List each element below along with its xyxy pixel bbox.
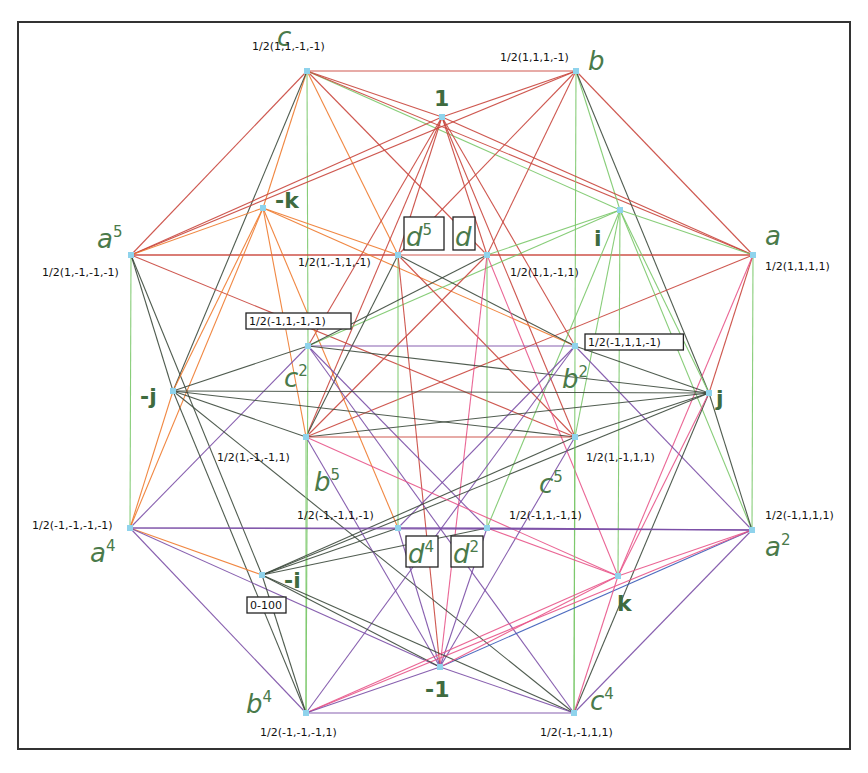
edge-b-a [576, 71, 753, 255]
edge-nj-a4 [130, 391, 173, 528]
symbol-exponent: 2 [470, 538, 480, 556]
edge-b-i [576, 71, 620, 210]
edge-j-c5 [575, 393, 709, 437]
edge-one-a5 [131, 117, 442, 255]
symbol-exponent: 4 [106, 537, 116, 555]
edge-c-nj [173, 71, 307, 391]
symbol-label-ni: -i [284, 568, 301, 593]
vertex-c4 [571, 710, 577, 716]
edge-c-a5 [131, 71, 307, 255]
vertex-d2 [484, 525, 490, 531]
vertex-b2 [572, 343, 578, 349]
coordinate-label-c5: 1/2(1,-1,1,1) [586, 451, 655, 464]
symbol-exponent: 2 [579, 363, 589, 381]
edge-c-one [307, 71, 442, 117]
symbol-label-a5: a5 [97, 223, 122, 254]
coordinate-label-a: 1/2(1,1,1,1) [765, 260, 830, 273]
symbol-exponent: 5 [331, 466, 341, 484]
vertex-a2 [749, 527, 755, 533]
vertex-n1 [437, 664, 443, 670]
vertex-c5 [572, 434, 578, 440]
edge-c-i [307, 71, 620, 210]
symbol-label-a2: a2 [765, 531, 790, 562]
edge-i-a2 [620, 210, 752, 530]
coordinate-label-b2: 1/2(-1,1,1,-1) [588, 336, 661, 349]
symbol-label-c4: c4 [590, 685, 614, 716]
edge-layer [130, 71, 753, 713]
edge-c2-a4 [130, 346, 308, 528]
edge-nj-b5 [173, 391, 306, 437]
symbol-label-d: d [455, 222, 472, 252]
edge-k-b4 [306, 576, 618, 713]
vertex-b4 [303, 710, 309, 716]
edge-b-d [487, 71, 576, 255]
symbol-label-a4: a4 [90, 537, 115, 568]
vertex-nk [260, 205, 266, 211]
edge-a-a2 [752, 255, 753, 530]
symbol-exponent: 2 [298, 362, 308, 380]
coordinate-label-d5: 1/2(1,-1,1,-1) [298, 256, 371, 269]
coordinate-label-c4: 1/2(-1,-1,1,1) [540, 726, 613, 739]
coordinate-label-d2: 1/2(-1,1,-1,1) [509, 509, 582, 522]
vertex-nj [170, 388, 176, 394]
symbol-exponent: 4 [604, 685, 614, 703]
symbol-exponent: 5 [553, 468, 563, 486]
edge-n1-c4 [440, 667, 574, 713]
edge-j-k [618, 393, 709, 576]
edge-b-a5 [131, 71, 576, 255]
coordinate-label-d: 1/2(1,1,-1,1) [510, 266, 579, 279]
edge-b-one [442, 71, 576, 117]
edge-a-j [709, 255, 753, 393]
vertex-a4 [127, 525, 133, 531]
edge-a2-k [618, 530, 752, 576]
symbol-exponent: 4 [425, 538, 435, 556]
symbol-exponent: 5 [423, 221, 433, 239]
symbol-label-b5: b5 [314, 466, 340, 497]
symbol-label-i: i [594, 226, 602, 251]
coordinate-label-d4: 1/2(-1,-1,1,-1) [297, 509, 374, 522]
symbol-label-one: 1 [434, 86, 449, 111]
vertex-i [617, 207, 623, 213]
edge-a4-b4 [130, 528, 306, 713]
edge-a-k [618, 255, 753, 576]
edge-c-a [307, 71, 753, 255]
vertex-c2 [305, 343, 311, 349]
edge-a2-n1 [440, 530, 752, 667]
coordinate-label-b4: 1/2(-1,-1,-1,1) [260, 726, 337, 739]
edge-n1-b4 [306, 667, 440, 713]
coordinate-label-c: 1/2(1,1,-1,-1) [252, 40, 325, 53]
symbol-exponent: 4 [263, 688, 273, 706]
coordinate-label-a2: 1/2(-1,1,1,1) [765, 509, 834, 522]
vertex-a5 [128, 252, 134, 258]
edge-c-c2 [307, 71, 308, 346]
symbol-label-j: j [715, 386, 724, 411]
symbol-label-a: a [765, 221, 781, 251]
edge-b-b2 [575, 71, 576, 346]
coordinate-label-a5: 1/2(1,-1,-1,-1) [42, 266, 119, 279]
edge-b2-a2 [575, 346, 752, 530]
edge-nj-b4 [173, 391, 306, 713]
edge-j-b5 [306, 393, 709, 437]
edge-a5-a4 [130, 255, 131, 528]
symbol-label-c2: c2 [284, 362, 308, 393]
vertex-ni [259, 572, 265, 578]
symbol-label-b: b [588, 46, 605, 76]
vertex-a [750, 252, 756, 258]
vertex-j [706, 390, 712, 396]
symbol-label-n1: -1 [425, 677, 449, 702]
edge-a-i [620, 210, 753, 255]
coordinate-label-c2: 1/2(-1,1,-1,-1) [249, 315, 326, 328]
symbol-label-b4: b4 [246, 688, 272, 719]
symbol-exponent: 2 [781, 531, 791, 549]
symbol-label-nk: -k [275, 188, 300, 213]
vertex-b5 [303, 434, 309, 440]
vertex-one [439, 114, 445, 120]
coordinate-label-b5: 1/2(1,-1,-1,1) [217, 451, 290, 464]
edge-i-j [620, 210, 709, 393]
vertex-d4 [395, 525, 401, 531]
vertex-k [615, 573, 621, 579]
vertex-d5 [395, 252, 401, 258]
quaternion-24-cell-diagram: c1/2(1,1,-1,-1)b1/2(1,1,1,-1)1a51/2(1,-1… [0, 0, 868, 773]
coordinate-label-b: 1/2(1,1,1,-1) [500, 51, 569, 64]
edge-d4-ni [262, 528, 398, 575]
